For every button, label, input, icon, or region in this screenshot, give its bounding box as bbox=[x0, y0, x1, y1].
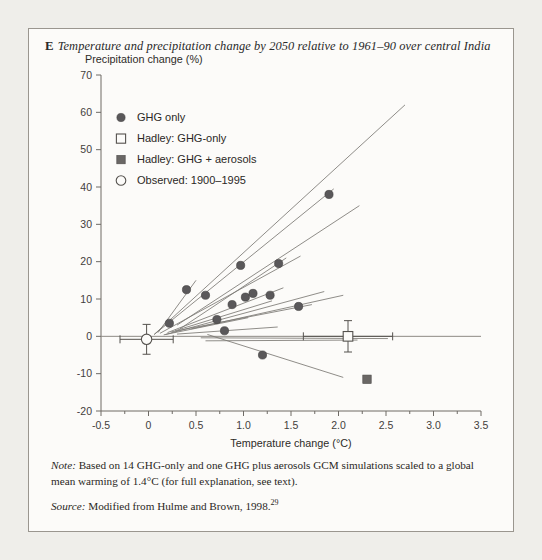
legend-marker-hadley-ghg bbox=[116, 134, 125, 143]
simulation-scaling-line bbox=[154, 189, 334, 335]
x-axis-tick-label: 1.0 bbox=[236, 419, 251, 431]
x-axis-tick-label: 3.0 bbox=[426, 419, 441, 431]
source-label: Source: bbox=[51, 500, 85, 512]
y-axis-tick-label: 70 bbox=[80, 69, 92, 81]
y-axis-tick-label: 30 bbox=[80, 218, 92, 230]
legend-marker-observed bbox=[116, 176, 126, 186]
legend-label: Hadley: GHG + aerosols bbox=[137, 153, 257, 165]
data-point-ghg-only bbox=[249, 289, 257, 297]
simulation-scaling-line bbox=[171, 305, 312, 332]
y-axis-tick-label: 0 bbox=[86, 330, 92, 342]
data-point-hadley-aerosols bbox=[363, 375, 371, 383]
legend-marker-hadley-aerosols bbox=[117, 155, 125, 163]
data-point-ghg-only bbox=[266, 291, 274, 299]
data-point-ghg-only bbox=[241, 293, 249, 301]
data-point-ghg-only bbox=[220, 327, 228, 335]
legend-label: GHG only bbox=[137, 111, 186, 123]
y-axis-tick-label: 40 bbox=[80, 181, 92, 193]
simulation-scaling-line bbox=[201, 338, 388, 339]
data-point-ghg-only bbox=[295, 302, 303, 310]
x-axis-tick-label: 0.5 bbox=[189, 419, 204, 431]
data-point-ghg-only bbox=[201, 291, 209, 299]
simulation-scaling-line bbox=[177, 206, 359, 325]
legend-marker-ghg-only bbox=[117, 113, 125, 121]
x-axis-tick-label: 3.5 bbox=[474, 419, 489, 431]
data-point-observed bbox=[141, 334, 151, 344]
source-superscript: 29 bbox=[271, 498, 279, 507]
x-axis-tick-label: 1.5 bbox=[284, 419, 299, 431]
note-text: Based on 14 GHG-only and one GHG plus ae… bbox=[51, 459, 474, 487]
note-paragraph: Note: Based on 14 GHG-only and one GHG p… bbox=[51, 457, 499, 489]
legend-label: Hadley: GHG-only bbox=[137, 132, 227, 144]
data-point-ghg-only bbox=[325, 190, 333, 198]
simulation-scaling-line bbox=[207, 334, 343, 377]
x-axis-label: Temperature change (°C) bbox=[230, 437, 351, 449]
x-axis-tick-label: 2.0 bbox=[331, 419, 346, 431]
data-point-ghg-only bbox=[213, 315, 221, 323]
data-point-hadley-ghg bbox=[343, 332, 353, 342]
y-axis-tick-label: -10 bbox=[77, 367, 92, 379]
data-point-ghg-only bbox=[182, 286, 190, 294]
source-text: Modified from Hulme and Brown, 1998. bbox=[85, 500, 270, 512]
x-axis-tick-label: 2.5 bbox=[379, 419, 394, 431]
figure-notes: Note: Based on 14 GHG-only and one GHG p… bbox=[51, 457, 499, 522]
y-axis-tick-label: 50 bbox=[80, 143, 92, 155]
data-point-ghg-only bbox=[258, 351, 266, 359]
legend-label: Observed: 1900–1995 bbox=[137, 174, 246, 186]
x-axis-tick-label: 0 bbox=[146, 419, 152, 431]
y-axis-tick-label: 20 bbox=[80, 255, 92, 267]
y-axis-label: Precipitation change (%) bbox=[85, 53, 203, 65]
note-label: Note: bbox=[51, 459, 76, 471]
data-point-ghg-only bbox=[275, 259, 283, 267]
y-axis-tick-label: -20 bbox=[77, 405, 92, 417]
data-point-ghg-only bbox=[228, 301, 236, 309]
data-point-ghg-only bbox=[165, 319, 173, 327]
y-axis-tick-label: 60 bbox=[80, 106, 92, 118]
figure-panel: ETemperature and precipitation change by… bbox=[28, 28, 514, 532]
x-axis-tick-label: -0.5 bbox=[92, 419, 110, 431]
source-paragraph: Source: Modified from Hulme and Brown, 1… bbox=[51, 497, 499, 514]
y-axis-tick-label: 10 bbox=[80, 293, 92, 305]
data-point-ghg-only bbox=[237, 261, 245, 269]
